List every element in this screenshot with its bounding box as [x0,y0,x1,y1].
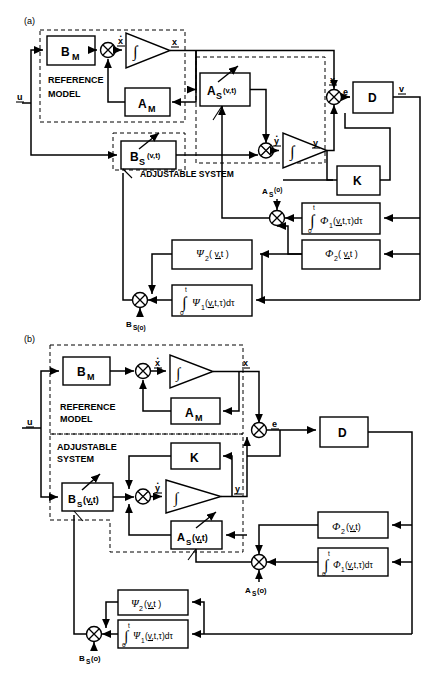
svg-text:Φ: Φ [333,559,341,570]
svg-text:o: o [122,641,126,648]
wire-u-up-b [41,371,59,428]
label-model-b: MODEL [60,414,93,424]
label-bs-a: B [130,150,139,164]
svg-text:Ψ: Ψ [192,296,201,308]
svg-text:Φ: Φ [332,520,341,532]
svg-text:t: t [328,550,330,557]
label-k-b: K [190,451,199,465]
label-am-b: A [185,406,194,420]
label-as-sub-a: S [216,91,222,101]
dot-xdot-a: . [120,29,123,39]
label-bso-arg-b: (o) [91,654,101,663]
svg-text:t: t [128,622,130,629]
panel-label-a: (a) [24,16,35,26]
signal-x-b: x [243,358,248,368]
label-aso-b: A [245,586,251,595]
label-as-arg-b: (v,t) [192,533,208,543]
dot-xdot-b: . [157,351,160,361]
label-model-a: MODEL [48,89,81,99]
wire-bssum-out-b [74,515,86,634]
wire-psi2-out-a [152,254,172,294]
label-reference-b: REFERENCE [60,402,116,412]
panel-b: (b) B M A M K D B S (v,t) A S (v,t) REFE… [22,334,412,665]
wire-phi2-out-b [259,525,318,554]
signal-e-b: e [272,419,277,429]
signal-v-a: v [399,84,404,94]
svg-text:o: o [322,570,326,577]
svg-text:2: 2 [139,605,143,612]
label-as-a: A [207,84,216,98]
svg-text:(v,t,τ)dτ: (v,t,τ)dτ [205,298,235,308]
wire-as-sum-out-a [222,106,269,218]
wire-x-to-am-a [172,51,196,103]
svg-text:Ψ: Ψ [133,630,141,641]
sum-junction-ydot-b [136,489,151,504]
label-bm-a: B [61,45,70,59]
label-bso-sub-a: S(o) [133,324,146,332]
signal-u-b: u [27,417,33,427]
wire-am-out-b [143,380,171,411]
figure-container: (a) B M A M A S (v,t) B S (v,t) D K REFE… [0,0,433,676]
label-bm-sub-b: M [87,372,95,382]
label-d-a: D [368,91,377,105]
svg-text:(v,t,τ)dτ: (v,t,τ)dτ [345,560,373,570]
dot-ydot-b: . [157,476,160,486]
signal-x-error-a: x [330,75,335,85]
signal-e-a: e [343,87,348,97]
label-am-sub-b: M [195,413,203,423]
label-bs-arg-b: (v,t) [83,495,99,505]
label-bm-b: B [77,365,86,379]
label-system-b: SYSTEM [57,454,94,464]
sum-junction-bs-b [87,627,102,642]
wire-d-out-a [393,97,420,218]
svg-text:t: t [185,286,187,293]
wire-k-out-b [129,456,171,489]
adjust-stem-as-b [188,549,196,560]
wire-as-out-a [250,90,266,144]
label-bm-sub-a: M [72,52,80,62]
svg-text:Ψ: Ψ [196,247,205,259]
signal-y-b: y [235,484,240,494]
wire-phi2-to-sum-a [277,226,302,254]
wire-psi-branch-b [192,602,204,634]
dot-ydot-a: . [276,129,279,139]
wire-y-to-k-b [223,456,232,497]
wire-am-to-sum-a [108,59,125,102]
label-am-sub-a: M [148,104,156,114]
block-bm-a [47,36,95,65]
svg-text:(v,t): (v,t) [346,522,361,532]
label-as-arg-a: (v,t) [223,86,237,95]
label-bs-b: B [68,493,76,505]
label-aso-a: A [262,187,268,196]
sum-junction-as-b [252,555,267,570]
adjust-stem-as-a [213,106,222,120]
svg-text:t: t [313,204,315,211]
svg-text:Φ: Φ [325,247,334,259]
sum-junction-xdot-a [101,43,116,58]
signal-x-a: x [172,37,177,47]
label-bso-b: B [79,654,85,663]
panel-a: (a) B M A M A S (v,t) B S (v,t) D K REFE… [16,16,420,332]
sum-junction-error-b [252,423,267,438]
sum-junction-xdot-b [136,364,151,379]
label-bs-arg-a: (v,t) [147,151,161,160]
label-bs-sub-a: S [139,157,145,167]
label-as-b: A [177,531,185,543]
label-k-a: K [353,174,362,188]
label-adjustable-b: ADJUSTABLE [57,442,117,452]
wire-psi2-out-b [106,602,118,628]
svg-text:o: o [308,227,312,234]
wire-as-out-b [129,504,171,535]
sum-junction-error-a [327,90,342,105]
svg-text:Φ: Φ [320,214,329,226]
svg-text:( v,t ): ( v,t ) [338,249,358,259]
wire-y-to-k-a [327,151,333,181]
label-reference-a: REFERENCE [48,75,104,85]
panel-label-b: (b) [24,334,35,344]
label-d-b: D [338,426,347,440]
label-am-a: A [138,97,147,111]
signal-u-a: u [17,92,23,102]
wire-x-to-am-b [223,372,239,412]
label-aso-arg-b: (o) [257,586,267,595]
wire-bs-sum-out-a [123,173,132,300]
